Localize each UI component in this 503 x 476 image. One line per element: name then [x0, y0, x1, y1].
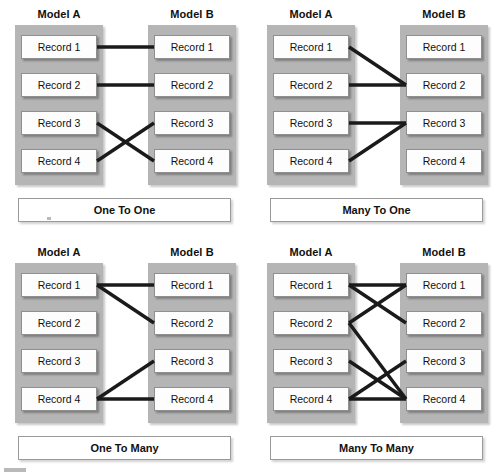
model-b-record-4: Record 4 [154, 387, 230, 411]
diagram-panel-one-to-many: Model AModel BRecord 1Record 2Record 3Re… [0, 238, 251, 476]
model-a-record-2: Record 2 [21, 311, 97, 335]
model-b-record-3: Record 3 [154, 349, 230, 373]
link-a3-to-b4 [97, 123, 154, 161]
link-a1-to-b2 [349, 285, 406, 323]
model-b-record-1: Record 1 [406, 273, 482, 297]
model-a-record-4: Record 4 [21, 387, 97, 411]
model-a-record-1: Record 1 [273, 35, 349, 59]
model-a-record-2: Record 2 [273, 73, 349, 97]
model-b-title: Model B [148, 8, 236, 20]
model-a-title: Model A [15, 8, 103, 20]
model-b-record-4: Record 4 [406, 149, 482, 173]
model-a-record-3: Record 3 [21, 349, 97, 373]
model-b-record-3: Record 3 [406, 111, 482, 135]
model-a-record-4: Record 4 [273, 387, 349, 411]
model-b-record-1: Record 1 [406, 35, 482, 59]
model-a-record-4: Record 4 [21, 149, 97, 173]
model-b-record-1: Record 1 [154, 35, 230, 59]
model-b-record-3: Record 3 [406, 349, 482, 373]
link-a4-to-b3 [97, 361, 154, 399]
model-b-record-4: Record 4 [154, 149, 230, 173]
model-a-record-3: Record 3 [21, 111, 97, 135]
diagram-panel-many-to-many: Model AModel BRecord 1Record 2Record 3Re… [252, 238, 503, 476]
link-a1-to-b2 [349, 47, 406, 85]
link-a4-to-b3 [349, 123, 406, 161]
model-b-record-1: Record 1 [154, 273, 230, 297]
model-a-record-2: Record 2 [21, 73, 97, 97]
model-b-record-2: Record 2 [154, 311, 230, 335]
model-b-title: Model B [400, 8, 488, 20]
artifact-speck [47, 217, 51, 220]
link-a2-to-b4 [349, 323, 406, 399]
model-a-record-1: Record 1 [21, 35, 97, 59]
link-a1-to-b2 [97, 285, 154, 323]
diagram-panel-many-to-one: Model AModel BRecord 1Record 2Record 3Re… [252, 0, 503, 238]
model-a-record-3: Record 3 [273, 111, 349, 135]
caption-one-to-many: One To Many [18, 436, 231, 460]
model-b-record-3: Record 3 [154, 111, 230, 135]
artifact-mark [4, 468, 26, 472]
link-a4-to-b3 [97, 123, 154, 161]
model-b-title: Model B [148, 246, 236, 258]
model-a-record-2: Record 2 [273, 311, 349, 335]
caption-many-to-one: Many To One [270, 198, 483, 222]
model-b-record-2: Record 2 [406, 311, 482, 335]
diagram-panel-one-to-one: Model AModel BRecord 1Record 2Record 3Re… [0, 0, 251, 238]
caption-many-to-many: Many To Many [270, 436, 483, 460]
model-a-title: Model A [267, 8, 355, 20]
link-a4-to-b3 [349, 361, 406, 399]
model-b-record-2: Record 2 [406, 73, 482, 97]
model-b-record-4: Record 4 [406, 387, 482, 411]
link-a3-to-b4 [349, 361, 406, 399]
model-a-record-1: Record 1 [21, 273, 97, 297]
model-a-title: Model A [267, 246, 355, 258]
relationship-diagram: Model AModel BRecord 1Record 2Record 3Re… [0, 0, 503, 476]
model-b-title: Model B [400, 246, 488, 258]
model-a-title: Model A [15, 246, 103, 258]
model-b-record-2: Record 2 [154, 73, 230, 97]
model-a-record-1: Record 1 [273, 273, 349, 297]
link-a2-to-b1 [349, 285, 406, 323]
model-a-record-3: Record 3 [273, 349, 349, 373]
model-a-record-4: Record 4 [273, 149, 349, 173]
